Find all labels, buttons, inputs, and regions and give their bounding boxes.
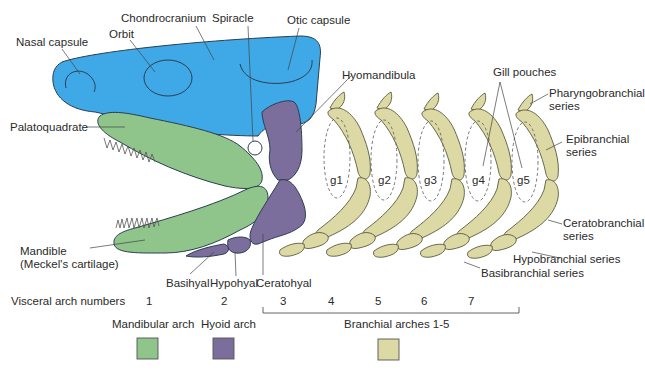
label-ceratohyal: Ceratohyal (256, 277, 312, 289)
label-gill-pouches: Gill pouches (493, 66, 557, 78)
arch-number-7: 7 (468, 295, 474, 307)
label-hypobranchial: Hypobranchial series (513, 253, 621, 265)
legend-swatch-branchial (378, 339, 399, 360)
label-pharyngobranchial-series: series (549, 100, 580, 112)
label-pharyngobranchial: Pharyngobranchial (549, 87, 645, 99)
legend-swatch-hyoid (213, 338, 234, 359)
arch-number-3: 3 (280, 295, 286, 307)
label-orbit: Orbit (109, 28, 135, 40)
label-ceratobranchial-series: series (563, 230, 594, 242)
label-epibranchial: Epibranchial (566, 133, 629, 145)
arch-number-5: 5 (375, 295, 381, 307)
label-epibranchial-series: series (566, 146, 597, 158)
visceral-arch-numbers: Visceral arch numbers 1 2 3 4 5 6 7 (11, 295, 519, 313)
legend-label-hyoid: Hyoid arch (201, 318, 256, 330)
spiracle-shape (248, 141, 262, 155)
arch-number-2: 2 (221, 295, 227, 307)
gill-pouch-label-g3: g3 (424, 174, 437, 186)
label-hyomandibula: Hyomandibula (342, 69, 416, 81)
label-basibranchial: Basibranchial series (481, 267, 584, 279)
gill-pouch-label-g2: g2 (378, 174, 391, 186)
label-otic-capsule: Otic capsule (287, 14, 350, 26)
legend-label-mandibular: Mandibular arch (112, 318, 194, 330)
branchial-bracket (263, 307, 519, 313)
visceral-arch-numbers-label: Visceral arch numbers (11, 295, 125, 307)
label-hypohyal: Hypohyal (210, 277, 258, 289)
hyomandibula-shape (262, 101, 302, 180)
legend-label-branchial: Branchial arches 1-5 (344, 318, 449, 330)
arch-number-6: 6 (421, 295, 427, 307)
arch-number-1: 1 (146, 295, 152, 307)
label-spiracle: Spiracle (212, 12, 254, 24)
hypohyal-shape (228, 237, 251, 253)
label-basihyal: Basihyal (166, 277, 209, 289)
legend-swatch-mandibular (137, 338, 158, 359)
label-meckels-cartilage: (Meckel's cartilage) (20, 258, 119, 270)
gill-pouch-label-g5: g5 (517, 174, 530, 186)
gill-pouch-label-g1: g1 (330, 174, 343, 186)
label-palatoquadrate: Palatoquadrate (10, 121, 88, 133)
label-mandible: Mandible (20, 245, 67, 257)
label-ceratobranchial: Ceratobranchial (563, 217, 644, 229)
legend: Mandibular arch Hyoid arch Branchial arc… (112, 318, 449, 360)
label-nasal-capsule: Nasal capsule (16, 36, 88, 48)
arch-number-4: 4 (328, 295, 335, 307)
arch-diagram: g1 g2 g3 g4 g5 Nasal capsule Orbit Chond… (0, 0, 645, 374)
gill-pouch-label-g4: g4 (472, 174, 485, 186)
label-chondrocranium: Chondrocranium (121, 12, 206, 24)
